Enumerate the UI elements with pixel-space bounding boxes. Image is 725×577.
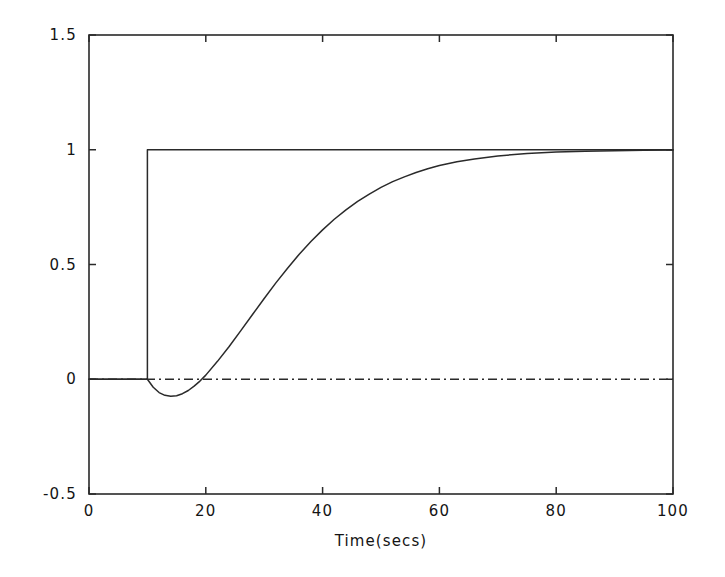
x-tick-label: 60 [429, 502, 451, 520]
chart-background [0, 0, 725, 577]
x-tick-label: 20 [195, 502, 217, 520]
x-tick-label: 80 [545, 502, 567, 520]
x-axis-title: Time(secs) [334, 532, 428, 550]
x-tick-label: 0 [84, 502, 95, 520]
x-tick-label: 40 [312, 502, 334, 520]
figure-container: 020406080100 -0.500.511.5 Time(secs) [0, 0, 725, 577]
y-tick-label: 0 [66, 370, 77, 388]
x-tick-label: 100 [657, 502, 689, 520]
y-tick-label: -0.5 [43, 485, 77, 503]
y-tick-label: 0.5 [50, 256, 77, 274]
y-tick-label: 1.5 [50, 26, 77, 44]
y-tick-label: 1 [66, 141, 77, 159]
step-response-chart: 020406080100 -0.500.511.5 Time(secs) [0, 0, 725, 577]
